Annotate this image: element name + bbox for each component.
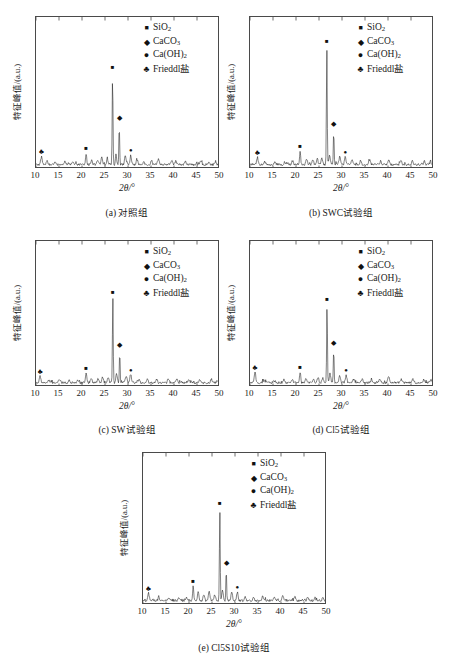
panel-d: 特征峰值/(a.u.)♣■■◆●■SiO2◆CaCO3●Ca(OH)2♣Frie… <box>0 0 460 669</box>
legend-label: SiO2 <box>153 21 171 36</box>
clover-marker-icon: ♣ <box>354 63 367 77</box>
legend-label: Frieddl盐 <box>153 287 190 301</box>
x-axis-label-unit: ° <box>131 401 135 411</box>
square-marker-icon: ■ <box>140 22 153 36</box>
legend-label: Ca(OH)2 <box>367 272 401 287</box>
peak-marker-square: ■ <box>325 38 329 44</box>
legend-item-Ca(OH)2: ●Ca(OH)2 <box>354 273 404 287</box>
legend: ■SiO2◆CaCO3●Ca(OH)2♣Frieddl盐 <box>354 22 404 76</box>
x-tick-label: 25 <box>314 170 323 180</box>
square-marker-icon: ■ <box>354 22 367 36</box>
panel-caption: (a) 对照组 <box>35 205 219 219</box>
y-axis-label-text: 特征峰值/(a.u.) <box>224 64 236 120</box>
peak-marker-square: ■ <box>84 145 88 151</box>
diamond-marker-icon: ◆ <box>354 260 367 274</box>
square-marker-icon: ■ <box>247 458 260 472</box>
y-axis-label: 特征峰值/(a.u.) <box>223 16 237 168</box>
y-axis-label: 特征峰值/(a.u.) <box>116 452 130 604</box>
x-axis-label: 2θ/° <box>249 401 433 411</box>
x-tick-label: 40 <box>383 170 392 180</box>
x-tick-label: 40 <box>276 606 285 616</box>
x-tick-label: 25 <box>100 170 109 180</box>
x-tick-label: 40 <box>383 388 392 398</box>
legend-item-Frieddl盐: ♣Frieddl盐 <box>140 287 190 301</box>
clover-marker-icon: ♣ <box>140 287 153 301</box>
plot-area: ♣■■◆● <box>142 452 326 604</box>
legend-item-CaCO3: ◆CaCO3 <box>354 260 404 274</box>
legend-label: SiO2 <box>367 245 385 260</box>
legend-item-CaCO3: ◆CaCO3 <box>140 36 190 50</box>
legend-item-SiO2: ■SiO2 <box>354 22 404 36</box>
peak-marker-diamond: ◆ <box>224 560 229 567</box>
diamond-marker-icon: ◆ <box>247 472 260 486</box>
x-tick-label: 40 <box>169 388 178 398</box>
x-axis-label-symbol: 2θ/ <box>119 183 131 193</box>
legend-item-CaCO3: ◆CaCO3 <box>247 472 297 486</box>
diffraction-trace <box>250 17 433 168</box>
x-tick-label: 30 <box>337 170 346 180</box>
x-tick-label: 30 <box>123 170 132 180</box>
dot-marker-icon: ● <box>354 49 367 63</box>
x-tick-label: 50 <box>215 170 224 180</box>
x-axis-label-symbol: 2θ/ <box>333 401 345 411</box>
legend-item-CaCO3: ◆CaCO3 <box>354 36 404 50</box>
x-tick-label: 10 <box>31 388 40 398</box>
legend-label: Ca(OH)2 <box>153 272 187 287</box>
x-tick-label: 20 <box>77 388 86 398</box>
x-tick-label: 50 <box>429 170 438 180</box>
legend-label: Frieddl盐 <box>367 287 404 301</box>
peak-marker-dot: ● <box>344 367 348 373</box>
xrd-figure: 特征峰值/(a.u.)♣■■◆●■SiO2◆CaCO3●Ca(OH)2♣Frie… <box>0 0 460 669</box>
diamond-marker-icon: ◆ <box>140 260 153 274</box>
diffraction-trace <box>143 453 326 604</box>
legend: ■SiO2◆CaCO3●Ca(OH)2♣Frieddl盐 <box>247 458 297 512</box>
x-tick-label: 25 <box>100 388 109 398</box>
x-axis-label: 2θ/° <box>249 183 433 193</box>
x-axis-label-symbol: 2θ/ <box>226 619 238 629</box>
x-axis-ticks: 101520253035404550 <box>35 170 219 182</box>
diffraction-trace <box>36 17 219 168</box>
x-tick-label: 45 <box>406 170 415 180</box>
x-tick-label: 25 <box>207 606 216 616</box>
x-axis-label: 2θ/° <box>35 401 219 411</box>
legend-label: CaCO3 <box>260 471 287 486</box>
peak-marker-square: ■ <box>111 64 115 70</box>
diamond-marker-icon: ◆ <box>354 36 367 50</box>
x-axis-label: 2θ/° <box>142 619 326 629</box>
x-tick-label: 10 <box>245 170 254 180</box>
x-tick-label: 50 <box>322 606 331 616</box>
legend-label: SiO2 <box>153 245 171 260</box>
x-tick-label: 15 <box>161 606 170 616</box>
peak-marker-square: ■ <box>191 578 195 584</box>
legend-label: SiO2 <box>260 457 278 472</box>
legend-item-SiO2: ■SiO2 <box>247 458 297 472</box>
x-tick-label: 45 <box>192 388 201 398</box>
panel-caption: (d) Cl5试验组 <box>249 422 433 436</box>
x-tick-label: 40 <box>169 170 178 180</box>
peak-marker-square: ■ <box>325 296 329 302</box>
x-tick-label: 15 <box>268 170 277 180</box>
x-tick-label: 35 <box>360 388 369 398</box>
x-tick-label: 20 <box>291 388 300 398</box>
y-axis-label-text: 特征峰值/(a.u.) <box>10 285 22 341</box>
clover-marker-icon: ♣ <box>247 499 260 513</box>
x-tick-label: 15 <box>268 388 277 398</box>
legend-label: Frieddl盐 <box>260 499 297 513</box>
x-tick-label: 20 <box>77 170 86 180</box>
x-tick-label: 30 <box>123 388 132 398</box>
x-axis-ticks: 101520253035404550 <box>142 606 326 618</box>
diamond-marker-icon: ◆ <box>140 36 153 50</box>
peak-marker-dot: ● <box>343 149 347 155</box>
clover-marker-icon: ♣ <box>354 287 367 301</box>
x-tick-label: 10 <box>245 388 254 398</box>
panel-c: 特征峰值/(a.u.)♣■■◆●■SiO2◆CaCO3●Ca(OH)2♣Frie… <box>0 0 460 669</box>
panel-caption: (b) SWC试验组 <box>249 205 433 219</box>
x-tick-label: 30 <box>230 606 239 616</box>
peak-marker-dot: ● <box>129 367 133 373</box>
dot-marker-icon: ● <box>140 273 153 287</box>
legend-label: Ca(OH)2 <box>153 48 187 63</box>
legend-label: CaCO3 <box>367 259 394 274</box>
legend-label: CaCO3 <box>153 35 180 50</box>
x-tick-label: 50 <box>215 388 224 398</box>
x-tick-label: 35 <box>146 170 155 180</box>
